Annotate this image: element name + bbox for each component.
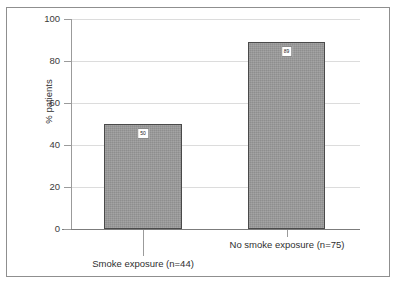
y-tick-label-100: 100 <box>44 14 60 24</box>
y-tick-mark-60 <box>64 103 71 104</box>
category-label-smoke-exposure: Smoke exposure (n=44) <box>92 258 194 269</box>
category-label-no-smoke-exposure: No smoke exposure (n=75) <box>230 239 345 250</box>
y-tick-label-20-wrap: 20 <box>0 182 60 192</box>
category-tick-no-smoke-exposure <box>287 230 288 237</box>
bar-value-label: 50 <box>137 128 149 139</box>
bar-no-smoke-exposure[interactable]: 89 <box>248 42 325 229</box>
y-tick-label-20: 20 <box>49 182 60 192</box>
chart-figure: 50 89 100 80 60 40 20 0 % patients Smoke… <box>0 0 397 283</box>
y-axis-title: % patients <box>43 52 54 152</box>
y-tick-label-100-wrap: 100 <box>0 14 60 24</box>
y-tick-mark-100 <box>64 19 71 20</box>
gridline-100 <box>71 19 360 20</box>
y-tick-label-0: 0 <box>55 224 60 234</box>
y-tick-mark-20 <box>64 187 71 188</box>
y-tick-mark-80 <box>64 61 71 62</box>
category-tick-smoke-exposure <box>143 230 144 256</box>
bar-value-label: 89 <box>281 46 293 57</box>
x-axis-line <box>62 229 360 230</box>
plot-area: 50 89 <box>71 19 360 229</box>
y-tick-mark-40 <box>64 145 71 146</box>
y-tick-mark-0 <box>64 229 71 230</box>
y-axis-line <box>71 19 72 230</box>
bar-smoke-exposure[interactable]: 50 <box>104 124 182 229</box>
y-tick-label-0-wrap: 0 <box>0 224 60 234</box>
